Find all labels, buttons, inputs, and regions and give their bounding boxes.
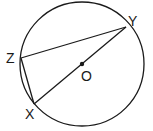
circle-diagram: Z Y O X xyxy=(0,0,153,131)
center-point xyxy=(80,62,84,66)
label-x: X xyxy=(25,106,35,122)
label-o: O xyxy=(81,68,92,84)
label-y: Y xyxy=(128,13,138,29)
label-z: Z xyxy=(6,50,15,66)
chord-zy xyxy=(21,27,126,58)
diameter-xy xyxy=(34,27,126,104)
